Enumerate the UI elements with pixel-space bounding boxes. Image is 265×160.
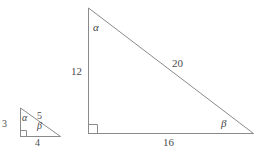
small-triangle-beta-angle-label: β — [37, 121, 42, 131]
large-triangle-base-label: 16 — [163, 137, 174, 148]
small-triangle-vertical-leg-label: 3 — [2, 119, 7, 129]
small-triangle-alpha-angle-label: α — [22, 113, 27, 123]
large-triangle-group — [88, 8, 254, 134]
triangles-canvas — [0, 0, 265, 160]
large-triangle-vertical-leg-label: 12 — [71, 66, 82, 77]
large-triangle-hypotenuse-label: 20 — [172, 58, 183, 69]
large-triangle-alpha-angle-label: α — [93, 22, 99, 33]
small-triangle-right-angle-marker — [21, 131, 27, 137]
small-triangle-base-label: 4 — [35, 138, 40, 148]
large-triangle-hypotenuse — [89, 8, 254, 134]
large-triangle-right-angle-marker — [89, 125, 98, 134]
geometry-figure: 3 5 4 α β 12 20 16 α β — [0, 0, 265, 160]
large-triangle-beta-angle-label: β — [221, 118, 226, 129]
